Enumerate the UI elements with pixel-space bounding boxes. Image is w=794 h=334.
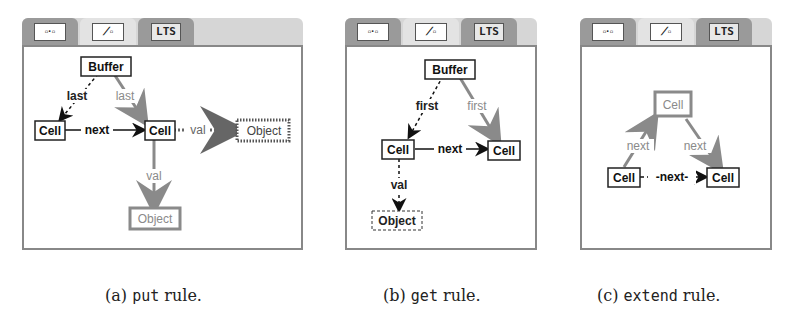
- svg-text:Cell: Cell: [613, 171, 635, 185]
- tab-type-view[interactable]: ⟋▫: [403, 18, 459, 45]
- label-first-erased: first: [416, 99, 439, 113]
- type-graph-icon: ⟋▫: [415, 23, 447, 41]
- svg-text:Cell: Cell: [663, 98, 684, 112]
- caption-c: (c) extend rule.: [597, 286, 720, 305]
- type-graph-icon: ⟋▫: [92, 23, 124, 41]
- lts-label: LTS: [151, 23, 181, 41]
- svg-text:Cell: Cell: [39, 124, 61, 138]
- graph-canvas: next next -next- Cell Cell Cell: [580, 45, 772, 250]
- label-last-erased: last: [67, 89, 88, 103]
- tab-lts[interactable]: LTS: [696, 18, 752, 45]
- tab-rule-view[interactable]: ▫·▫: [345, 18, 401, 45]
- label-next-left: next: [627, 139, 650, 153]
- tab-rule-view[interactable]: ▫·▫: [22, 18, 78, 45]
- lts-label: LTS: [709, 23, 739, 41]
- tab-rule-view[interactable]: ▫·▫: [580, 18, 636, 45]
- svg-text:Buffer: Buffer: [88, 60, 124, 74]
- svg-text:Cell: Cell: [387, 143, 409, 157]
- tab-bar: ▫·▫ ⟋▫ LTS: [22, 18, 303, 45]
- svg-text:Cell: Cell: [493, 144, 515, 158]
- graph-canvas: first first next val Buffer Cell Cell Ob…: [345, 45, 537, 250]
- panel-get-rule: ▫·▫ ⟋▫ LTS first first next val: [345, 18, 537, 250]
- label-val-created: val: [146, 169, 161, 183]
- tab-lts[interactable]: LTS: [461, 18, 517, 45]
- label-next-erased: -next-: [656, 170, 689, 184]
- tab-bar: ▫·▫ ⟋▫ LTS: [345, 18, 537, 45]
- caption-a: (a) put rule.: [105, 286, 202, 305]
- tab-bar: ▫·▫ ⟋▫ LTS: [580, 18, 772, 45]
- label-last-created: last: [116, 89, 135, 103]
- svg-text:Object: Object: [378, 214, 415, 228]
- graph-canvas: last last next val val Buffer Cell Cell …: [22, 45, 303, 250]
- tab-type-view[interactable]: ⟋▫: [638, 18, 694, 45]
- rule-graph-icon: ▫·▫: [357, 23, 389, 41]
- label-next: next: [438, 142, 463, 156]
- panel-extend-rule: ▫·▫ ⟋▫ LTS next next -next- Cell C: [580, 18, 772, 250]
- tab-lts[interactable]: LTS: [138, 18, 194, 45]
- svg-text:Object: Object: [138, 212, 173, 226]
- caption-b: (b) get rule.: [383, 286, 481, 305]
- svg-text:Cell: Cell: [149, 124, 171, 138]
- svg-text:Cell: Cell: [712, 171, 734, 185]
- type-graph-icon: ⟋▫: [650, 23, 682, 41]
- rule-graph-icon: ▫·▫: [34, 23, 66, 41]
- label-next: next: [85, 123, 110, 137]
- tab-type-view[interactable]: ⟋▫: [80, 18, 136, 45]
- label-val-nac: val: [190, 123, 205, 137]
- label-val-erased: val: [391, 178, 408, 192]
- label-first-created: first: [467, 99, 487, 113]
- label-next-right: next: [684, 139, 707, 153]
- rule-graph-icon: ▫·▫: [592, 23, 624, 41]
- svg-text:Buffer: Buffer: [432, 63, 468, 77]
- panel-put-rule: ▫·▫ ⟋▫ LTS last last ne: [22, 18, 303, 250]
- lts-label: LTS: [474, 23, 504, 41]
- svg-text:Object: Object: [247, 124, 282, 138]
